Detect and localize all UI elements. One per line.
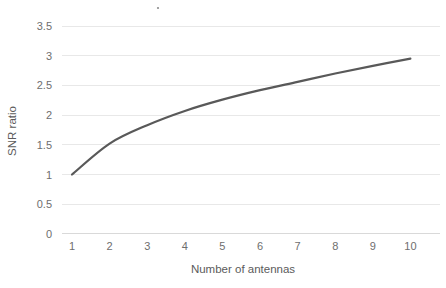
y-tick-label: 2.5 [37,79,52,91]
x-axis-title: Number of antennas [191,263,295,275]
y-axis-title: SNR ratio [6,106,18,156]
x-tick-label: 8 [332,240,338,252]
x-tick-label: 7 [295,240,301,252]
y-tick-label: 1 [46,169,52,181]
x-tick-label: 9 [370,240,376,252]
x-tick-label: 5 [219,240,225,252]
chart-page: 3.5 3 2.5 2 1.5 1 0.5 0 1 2 3 4 5 6 7 8 … [0,0,446,288]
y-tick-label: 3 [46,50,52,62]
x-tick-label: 2 [107,240,113,252]
x-tick-label: 6 [257,240,263,252]
y-tick-label: 0.5 [37,198,52,210]
snr-ratio-line-chart: 3.5 3 2.5 2 1.5 1 0.5 0 1 2 3 4 5 6 7 8 … [0,0,446,288]
x-tick-label: 10 [404,240,416,252]
scan-artifact-speck [157,7,159,9]
x-tick-label: 1 [69,240,75,252]
y-tick-label: 1.5 [37,139,52,151]
x-tick-label: 4 [182,240,188,252]
x-tick-label: 3 [144,240,150,252]
y-tick-label: 3.5 [37,20,52,32]
y-tick-label: 0 [46,228,52,240]
y-tick-label: 2 [46,109,52,121]
